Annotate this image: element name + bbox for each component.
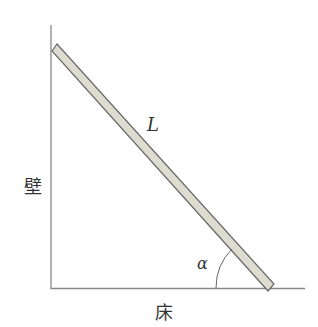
wall-label: 壁 <box>24 172 42 198</box>
angle-label: α <box>197 254 208 273</box>
diagram-canvas <box>0 0 318 327</box>
angle-arc <box>216 249 232 288</box>
floor-label: 床 <box>155 298 173 324</box>
ladder <box>52 44 274 291</box>
ladder-length-label: L <box>147 114 159 135</box>
